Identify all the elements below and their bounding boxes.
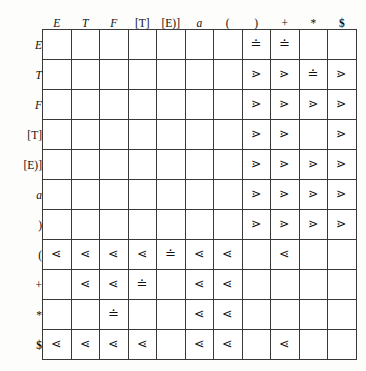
row-header-1: T bbox=[14, 60, 43, 90]
relation-glyph: ⋖ bbox=[223, 308, 233, 321]
relation-cell: ⋖ bbox=[185, 240, 214, 270]
column-header-1: T bbox=[71, 12, 100, 30]
relation-cell bbox=[157, 300, 186, 330]
relation-cell: ≐ bbox=[100, 300, 129, 330]
relation-cell: ⋗ bbox=[271, 60, 300, 90]
relation-cell: ⋗ bbox=[299, 210, 328, 240]
relation-cell: ⋖ bbox=[185, 270, 214, 300]
row-header-3: [T] bbox=[14, 120, 43, 150]
relation-glyph: ⋖ bbox=[109, 248, 119, 261]
relation-glyph: ⋗ bbox=[251, 128, 261, 141]
relation-glyph: ≐ bbox=[279, 37, 290, 50]
relation-glyph: ⋗ bbox=[308, 158, 318, 171]
relation-cell bbox=[100, 150, 129, 180]
relation-glyph: ⋖ bbox=[137, 338, 147, 351]
relation-cell bbox=[128, 30, 157, 60]
relation-glyph: ⋖ bbox=[194, 248, 204, 261]
relation-cell bbox=[185, 60, 214, 90]
relation-cell bbox=[128, 60, 157, 90]
relation-cell bbox=[214, 150, 243, 180]
relation-glyph: ⋗ bbox=[280, 188, 290, 201]
relation-cell bbox=[43, 90, 72, 120]
relation-cell bbox=[214, 90, 243, 120]
relation-cell: ⋖ bbox=[71, 330, 100, 360]
table-row: T⋗⋗≐⋗ bbox=[14, 60, 356, 90]
relation-cell bbox=[185, 90, 214, 120]
relation-glyph: ⋗ bbox=[251, 158, 261, 171]
relation-cell bbox=[100, 60, 129, 90]
relation-cell bbox=[299, 330, 328, 360]
relation-cell bbox=[128, 300, 157, 330]
relation-glyph: ⋗ bbox=[308, 218, 318, 231]
relation-cell bbox=[157, 120, 186, 150]
column-header-4: [E)] bbox=[157, 12, 186, 30]
relation-cell bbox=[71, 90, 100, 120]
column-header-7: ) bbox=[242, 12, 271, 30]
relation-glyph: ⋗ bbox=[251, 188, 261, 201]
table-row: E≐≐ bbox=[14, 30, 356, 60]
relation-glyph: ⋖ bbox=[52, 248, 62, 261]
relation-cell bbox=[128, 180, 157, 210]
relation-glyph: ⋗ bbox=[280, 218, 290, 231]
relation-cell bbox=[128, 120, 157, 150]
row-header-7: ( bbox=[14, 240, 43, 270]
relation-cell bbox=[328, 30, 357, 60]
table-row: [T]⋗⋗⋗ bbox=[14, 120, 356, 150]
relation-glyph: ⋖ bbox=[223, 278, 233, 291]
relation-glyph: ⋗ bbox=[280, 68, 290, 81]
relation-cell bbox=[328, 270, 357, 300]
row-header-4: [E)] bbox=[14, 150, 43, 180]
relation-glyph: ⋖ bbox=[109, 278, 119, 291]
table-row: a⋗⋗⋗⋗ bbox=[14, 180, 356, 210]
relation-cell bbox=[214, 210, 243, 240]
relation-cell: ⋗ bbox=[271, 180, 300, 210]
relation-cell: ⋗ bbox=[242, 120, 271, 150]
row-header-2: F bbox=[14, 90, 43, 120]
table-row: )⋗⋗⋗⋗ bbox=[14, 210, 356, 240]
relation-cell: ⋗ bbox=[271, 150, 300, 180]
relation-cell bbox=[214, 30, 243, 60]
relation-cell bbox=[43, 180, 72, 210]
relation-cell bbox=[299, 120, 328, 150]
relation-cell bbox=[71, 120, 100, 150]
relation-cell bbox=[328, 330, 357, 360]
row-header-0: E bbox=[14, 30, 43, 60]
precedence-table-figure: ETF[T][E)]a()+*$ E≐≐T⋗⋗≐⋗F⋗⋗⋗⋗[T]⋗⋗⋗[E)]… bbox=[0, 0, 366, 371]
row-header-5: a bbox=[14, 180, 43, 210]
relation-cell bbox=[43, 60, 72, 90]
relation-cell bbox=[71, 300, 100, 330]
relation-cell bbox=[43, 270, 72, 300]
relation-glyph: ≐ bbox=[108, 307, 119, 320]
relation-glyph: ⋗ bbox=[251, 98, 261, 111]
relation-cell bbox=[43, 300, 72, 330]
relation-cell: ⋗ bbox=[328, 120, 357, 150]
relation-cell bbox=[242, 240, 271, 270]
row-header-6: ) bbox=[14, 210, 43, 240]
relation-cell: ⋗ bbox=[271, 90, 300, 120]
relation-cell: ≐ bbox=[128, 270, 157, 300]
relation-glyph: ⋖ bbox=[80, 338, 90, 351]
relation-cell: ⋖ bbox=[128, 330, 157, 360]
relation-glyph: ⋗ bbox=[280, 98, 290, 111]
relation-cell bbox=[214, 120, 243, 150]
relation-cell bbox=[100, 180, 129, 210]
relation-glyph: ⋖ bbox=[194, 338, 204, 351]
table-corner-cell bbox=[14, 12, 43, 30]
relation-glyph: ≐ bbox=[137, 277, 148, 290]
relation-glyph: ⋗ bbox=[280, 128, 290, 141]
relation-cell bbox=[43, 210, 72, 240]
column-header-9: * bbox=[299, 12, 328, 30]
relation-cell bbox=[157, 150, 186, 180]
relation-cell bbox=[128, 210, 157, 240]
row-header-9: * bbox=[14, 300, 43, 330]
relation-cell bbox=[185, 120, 214, 150]
relation-cell: ⋖ bbox=[271, 330, 300, 360]
table-row: *≐⋖⋖ bbox=[14, 300, 356, 330]
relation-cell: ≐ bbox=[271, 30, 300, 60]
relation-glyph: ⋗ bbox=[308, 98, 318, 111]
relation-cell: ⋗ bbox=[242, 180, 271, 210]
relation-cell bbox=[271, 270, 300, 300]
relation-cell: ⋖ bbox=[43, 330, 72, 360]
column-header-10: $ bbox=[328, 12, 357, 30]
table-header-row: ETF[T][E)]a()+*$ bbox=[14, 12, 356, 30]
